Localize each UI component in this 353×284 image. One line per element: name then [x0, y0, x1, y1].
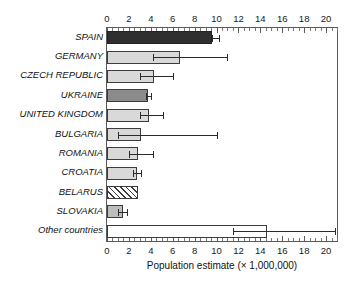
bar: [107, 186, 138, 199]
error-bar-cap: [227, 54, 228, 61]
axis-tick: [299, 238, 300, 241]
axis-tick-label: 18: [299, 14, 310, 24]
error-bar-cap: [173, 73, 174, 80]
axis-tick: [244, 28, 245, 31]
bottom-axis-tick-labels: 02468101214161820: [106, 246, 338, 258]
error-bar-cap: [133, 170, 134, 177]
category-label: SLOVAKIA: [0, 206, 103, 216]
axis-tick: [217, 28, 218, 33]
axis-tick: [321, 28, 322, 31]
category-label: ROMANIA: [0, 148, 103, 158]
category-label: Other countries: [0, 225, 103, 235]
error-bar-line: [153, 57, 227, 58]
axis-tick: [167, 238, 168, 241]
error-bar-cap: [129, 151, 130, 158]
axis-tick-label: 2: [126, 246, 131, 256]
axis-tick-label: 8: [192, 14, 197, 24]
axis-tick: [162, 238, 163, 241]
error-bar-cap: [151, 93, 152, 100]
error-bar-line: [233, 231, 335, 232]
axis-tick: [293, 238, 294, 241]
bar: [107, 31, 212, 44]
error-bar-cap: [233, 228, 234, 235]
top-axis-tick-labels: 02468101214161820: [106, 14, 338, 26]
axis-tick: [255, 28, 256, 31]
bar: [107, 167, 137, 180]
axis-tick: [337, 238, 338, 241]
axis-tick: [249, 238, 250, 241]
axis-tick: [227, 238, 228, 241]
axis-tick: [315, 238, 316, 241]
axis-tick: [304, 236, 305, 241]
category-label: CZECH REPUBLIC: [0, 70, 103, 80]
axis-tick: [189, 238, 190, 241]
axis-tick: [277, 238, 278, 241]
axis-tick: [206, 238, 207, 241]
axis-tick-label: 16: [277, 246, 288, 256]
category-label: BELARUS: [0, 187, 103, 197]
axis-tick-label: 12: [233, 246, 244, 256]
axis-tick-label: 6: [170, 246, 175, 256]
error-bar-line: [118, 135, 217, 136]
axis-tick: [118, 238, 119, 241]
axis-tick-label: 20: [321, 14, 332, 24]
error-bar-cap: [163, 112, 164, 119]
axis-tick: [156, 238, 157, 241]
axis-tick: [293, 28, 294, 31]
axis-tick: [249, 28, 250, 31]
axis-tick: [288, 238, 289, 241]
error-bar-line: [118, 212, 127, 213]
axis-tick: [184, 238, 185, 241]
axis-tick-label: 4: [148, 246, 153, 256]
axis-tick-label: 8: [192, 246, 197, 256]
axis-tick: [266, 238, 267, 241]
axis-tick: [288, 28, 289, 31]
axis-tick: [211, 238, 212, 241]
axis-tick: [140, 238, 141, 241]
axis-tick-label: 14: [255, 246, 266, 256]
axis-tick: [233, 28, 234, 31]
error-bar-cap: [146, 93, 147, 100]
axis-tick: [255, 238, 256, 241]
error-bar-cap: [140, 112, 141, 119]
axis-tick-label: 18: [299, 246, 310, 256]
axis-tick: [123, 238, 124, 241]
category-label: GERMANY: [0, 51, 103, 61]
category-label: CROATIA: [0, 167, 103, 177]
axis-tick-label: 10: [211, 14, 222, 24]
axis-tick: [271, 28, 272, 31]
axis-tick: [282, 28, 283, 33]
axis-tick-label: 2: [126, 14, 131, 24]
category-label: SPAIN: [0, 32, 103, 42]
axis-tick: [222, 28, 223, 31]
axis-tick-label: 14: [255, 14, 266, 24]
axis-tick: [299, 28, 300, 31]
category-label: UNITED KINGDOM: [0, 109, 103, 119]
category-label: BULGARIA: [0, 129, 103, 139]
error-bar-line: [133, 173, 141, 174]
axis-tick: [282, 236, 283, 241]
axis-tick-label: 10: [211, 246, 222, 256]
error-bar-cap: [217, 132, 218, 139]
axis-tick-label: 6: [170, 14, 175, 24]
category-axis-labels: SPAINGERMANYCZECH REPUBLICUKRAINEUNITED …: [0, 27, 103, 242]
plot-area: [106, 27, 338, 242]
axis-tick: [222, 238, 223, 241]
error-bar-cap: [118, 209, 119, 216]
error-bar-line: [129, 154, 153, 155]
axis-tick: [315, 28, 316, 31]
axis-tick: [326, 236, 327, 241]
error-bar-line: [140, 115, 163, 116]
error-bar-cap: [127, 209, 128, 216]
axis-tick: [244, 238, 245, 241]
axis-tick: [332, 28, 333, 31]
axis-tick: [233, 238, 234, 241]
axis-tick-label: 12: [233, 14, 244, 24]
axis-tick: [304, 28, 305, 33]
error-bar-cap: [141, 170, 142, 177]
error-bar-line: [140, 76, 173, 77]
axis-tick-label: 4: [148, 14, 153, 24]
axis-tick: [326, 28, 327, 33]
axis-tick: [337, 28, 338, 31]
error-bar-cap: [153, 54, 154, 61]
